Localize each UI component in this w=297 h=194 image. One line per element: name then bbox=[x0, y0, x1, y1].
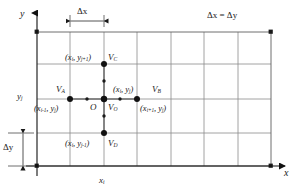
node-right-potential-label: VB bbox=[152, 85, 161, 95]
node-center-origin-label: O bbox=[90, 103, 97, 112]
midpoint-dot-left bbox=[85, 97, 88, 100]
grid-stencil-svg bbox=[0, 0, 297, 194]
node-left-y-sub: j bbox=[54, 107, 55, 113]
x-axis-label: x bbox=[284, 168, 288, 178]
node-top-V-sub: C bbox=[114, 56, 118, 62]
node-center-O bbox=[101, 96, 107, 102]
midpoint-dot-right bbox=[118, 97, 121, 100]
node-left-V-sub: A bbox=[62, 88, 65, 94]
delta-x-dimension bbox=[70, 15, 104, 27]
midpoint-dot-top bbox=[102, 79, 105, 82]
y-axis-label: y bbox=[20, 9, 24, 19]
node-top-VC bbox=[101, 61, 107, 67]
node-right-coordinate-label: (xi+1, yj) bbox=[140, 104, 166, 113]
node-bottom-V-sub: D bbox=[114, 142, 118, 148]
delta-x-label: Δx bbox=[77, 7, 87, 16]
node-bottom-coordinate-label: (xi, yj-1) bbox=[65, 139, 89, 148]
node-bottom-x-sub: i bbox=[72, 142, 73, 148]
delta-equality-note: Δx = Δy bbox=[207, 11, 237, 20]
node-left-potential-label: VA bbox=[56, 85, 65, 95]
node-left-VA bbox=[67, 96, 73, 102]
node-center-coordinate-label: (xi, yj) bbox=[113, 85, 133, 94]
node-right-y-sub: j bbox=[162, 107, 163, 113]
node-right-V-sub: B bbox=[158, 88, 161, 94]
node-right-VB bbox=[134, 96, 140, 102]
delta-y-label: Δy bbox=[3, 143, 13, 152]
x-tick-label-xi: xi bbox=[99, 176, 104, 186]
y-tick-label-yj: yj bbox=[17, 92, 22, 102]
midpoint-dot-bottom bbox=[102, 114, 105, 117]
corner-marker-top-right bbox=[269, 30, 273, 34]
node-top-x-sub: i bbox=[72, 56, 73, 62]
stencil-nodes bbox=[67, 61, 140, 136]
node-bottom-VD bbox=[101, 130, 107, 136]
node-center-potential-label: VO bbox=[108, 103, 117, 113]
y-tick-sub: j bbox=[21, 95, 22, 101]
node-center-V-sub: O bbox=[114, 106, 118, 112]
node-left-x-sub: i-1 bbox=[41, 107, 47, 113]
node-center-y-sub: j bbox=[129, 88, 130, 94]
node-bottom-y-sub: j-1 bbox=[81, 142, 87, 148]
node-top-coordinate-label: (xi, yj+1) bbox=[65, 53, 91, 62]
figure-canvas: y x yj xi Δx Δy Δx = Δy (xi, yj+1) VC VA… bbox=[0, 0, 297, 194]
node-center-x-sub: i bbox=[120, 88, 121, 94]
x-tick-sub: i bbox=[103, 179, 104, 185]
node-left-coordinate-label: (xi-1, yj) bbox=[34, 104, 58, 113]
node-top-y-sub: j+1 bbox=[81, 56, 88, 62]
node-bottom-potential-label: VD bbox=[108, 139, 117, 149]
node-right-x-sub: i+1 bbox=[147, 107, 154, 113]
node-top-potential-label: VC bbox=[108, 53, 117, 63]
